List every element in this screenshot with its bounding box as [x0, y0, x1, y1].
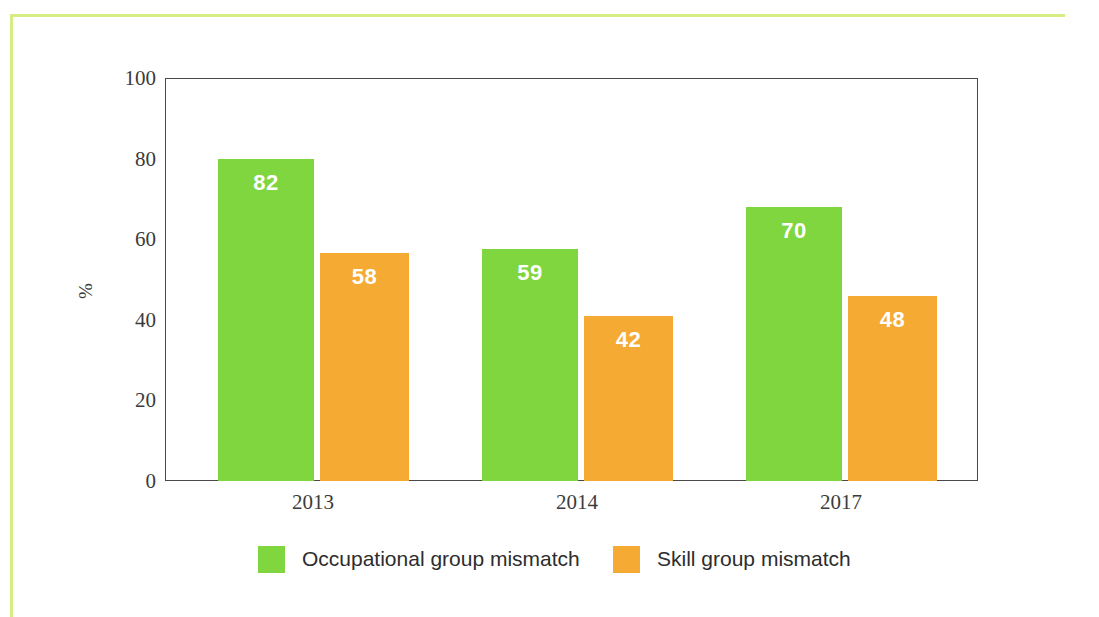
page-container: 0 20 40 60 80 100 % 82 58 59 42 — [0, 0, 1099, 617]
legend-item-occupational-group-mismatch[interactable]: Occupational group mismatch — [258, 544, 580, 574]
chart-legend: Occupational group mismatch Skill group … — [0, 544, 1099, 578]
bar-value-label: 48 — [848, 307, 937, 333]
bar-2017-skill[interactable]: 48 — [848, 296, 937, 481]
bar-2013-occupational[interactable]: 82 — [218, 159, 314, 481]
legend-swatch-green — [258, 546, 285, 573]
x-axis: 2013 2014 2017 — [165, 490, 978, 524]
x-tick-label-2017: 2017 — [820, 490, 862, 515]
y-tick-label-80: 80 — [110, 147, 156, 172]
bar-value-label: 70 — [746, 218, 842, 244]
x-tick-label-2013: 2013 — [292, 490, 334, 515]
y-tick-label-60: 60 — [110, 227, 156, 252]
y-tick-label-0: 0 — [110, 469, 156, 494]
legend-swatch-orange — [613, 546, 640, 573]
x-tick-label-2014: 2014 — [556, 490, 598, 515]
bar-2017-occupational[interactable]: 70 — [746, 207, 842, 481]
bar-value-label: 42 — [584, 327, 673, 353]
bar-value-label: 82 — [218, 170, 314, 196]
bar-2013-skill[interactable]: 58 — [320, 253, 409, 481]
legend-label: Occupational group mismatch — [302, 547, 580, 571]
legend-label: Skill group mismatch — [657, 547, 851, 571]
y-tick-label-20: 20 — [110, 388, 156, 413]
bar-value-label: 59 — [482, 260, 578, 286]
bar-2014-skill[interactable]: 42 — [584, 316, 673, 481]
y-axis-title: % — [75, 283, 97, 299]
y-axis: 0 20 40 60 80 100 — [104, 0, 156, 617]
bar-2014-occupational[interactable]: 59 — [482, 249, 578, 481]
bar-chart: 0 20 40 60 80 100 % 82 58 59 42 — [0, 0, 1099, 617]
bar-value-label: 58 — [320, 264, 409, 290]
y-tick-label-100: 100 — [110, 66, 156, 91]
y-tick-label-40: 40 — [110, 308, 156, 333]
bars-layer: 82 58 59 42 70 48 — [165, 78, 978, 481]
legend-item-skill-group-mismatch[interactable]: Skill group mismatch — [613, 544, 851, 574]
